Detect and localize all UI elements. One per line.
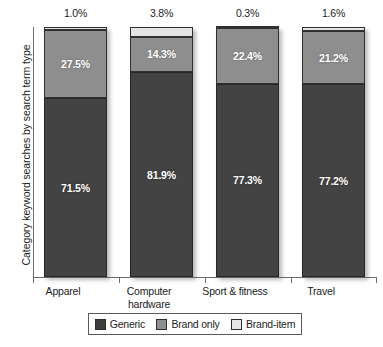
bar-segment-brand-only[interactable]: 22.4% [216, 28, 279, 84]
bar-segment-generic[interactable]: 81.9% [130, 72, 193, 277]
x-axis-category-computer-hardware: Computer hardware [100, 285, 198, 310]
x-axis-category-apparel: Apparel [14, 285, 112, 298]
legend-label: Generic [110, 318, 145, 330]
bar-segment-generic[interactable]: 71.5% [44, 98, 107, 277]
x-axis-tick [376, 278, 377, 283]
bar-segment-generic[interactable]: 77.2% [302, 84, 365, 277]
category-label-line2: hardware [100, 298, 198, 311]
plot-area: 1.0% 27.5% 71.5% 3.8% 14.3% 81.9% [33, 27, 377, 277]
category-label-line1: Computer [100, 285, 198, 298]
bar-top-label: 0.3% [216, 7, 279, 19]
chart-legend: Generic Brand only Brand-item [88, 313, 302, 335]
legend-label: Brand-item [246, 318, 295, 330]
legend-label: Brand only [171, 318, 219, 330]
bar-segment-label: 77.2% [319, 175, 348, 187]
legend-item-brand-item[interactable]: Brand-item [231, 318, 295, 330]
category-label-line1: Sport & fitness [186, 285, 284, 298]
bar-segment-label: 27.5% [61, 58, 90, 70]
x-axis-category-travel: Travel [272, 285, 370, 298]
bar-group-computer-hardware[interactable]: 3.8% 14.3% 81.9% [130, 27, 193, 277]
bar-segment-label: 77.3% [233, 174, 262, 186]
x-axis-tick [33, 278, 34, 283]
legend-swatch-icon [156, 319, 167, 330]
bar-segment-label: 81.9% [147, 169, 176, 181]
x-axis-tick [205, 278, 206, 283]
bar-segment-brand-item[interactable] [130, 27, 193, 37]
x-axis-tick [291, 278, 292, 283]
y-axis-label: Category keyword searches by search term… [18, 30, 34, 280]
legend-swatch-icon [95, 319, 106, 330]
legend-item-brand-only[interactable]: Brand only [156, 318, 219, 330]
bar-segment-generic[interactable]: 77.3% [216, 84, 279, 277]
category-label-line1: Travel [272, 285, 370, 298]
bar-group-apparel[interactable]: 1.0% 27.5% 71.5% [44, 27, 107, 277]
legend-item-generic[interactable]: Generic [95, 318, 145, 330]
legend-swatch-icon [231, 319, 242, 330]
bar-segment-label: 71.5% [61, 182, 90, 194]
bar-group-sport-fitness[interactable]: 0.3% 22.4% 77.3% [216, 27, 279, 277]
bar-segment-brand-only[interactable]: 27.5% [44, 30, 107, 99]
bar-segment-label: 22.4% [233, 50, 262, 62]
bar-stack: 21.2% 77.2% [302, 27, 365, 277]
bar-top-label: 1.0% [44, 7, 107, 19]
bar-stack: 27.5% 71.5% [44, 27, 107, 277]
stacked-bar-chart: Category keyword searches by search term… [0, 0, 383, 347]
bar-top-label: 3.8% [130, 7, 193, 19]
bar-segment-brand-only[interactable]: 21.2% [302, 31, 365, 84]
x-axis-tick [119, 278, 120, 283]
bar-top-label: 1.6% [302, 7, 365, 19]
bar-stack: 22.4% 77.3% [216, 27, 279, 277]
bar-segment-label: 21.2% [319, 52, 348, 64]
bar-segment-label: 14.3% [147, 48, 176, 60]
bar-segment-brand-only[interactable]: 14.3% [130, 37, 193, 73]
bar-stack: 14.3% 81.9% [130, 27, 193, 277]
category-label-line1: Apparel [14, 285, 112, 298]
x-axis-category-sport-fitness: Sport & fitness [186, 285, 284, 298]
bar-group-travel[interactable]: 1.6% 21.2% 77.2% [302, 27, 365, 277]
